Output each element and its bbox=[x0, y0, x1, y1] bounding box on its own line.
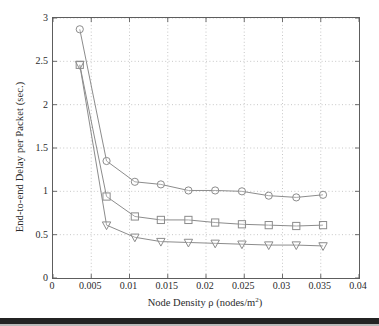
data-point-marker bbox=[238, 221, 245, 228]
y-axis-tick-labels: 00.511.522.53 bbox=[0, 17, 48, 277]
data-point-marker bbox=[265, 242, 273, 250]
x-axis-tick-labels: 00.0050.010.0150.020.0250.030.0350.04 bbox=[52, 280, 358, 296]
data-point-marker bbox=[131, 178, 138, 185]
series-circle-series bbox=[76, 26, 326, 201]
data-point-marker bbox=[212, 219, 219, 226]
x-axis-title: Node Density ρ (nodes/m2) bbox=[52, 297, 358, 308]
data-point-marker bbox=[157, 238, 165, 246]
data-point-marker bbox=[76, 26, 83, 33]
data-point-marker bbox=[103, 193, 110, 200]
y-tick-label: 2.5 bbox=[4, 55, 48, 66]
data-point-marker bbox=[102, 222, 110, 230]
plot-area bbox=[52, 17, 360, 279]
y-tick-label: 1.5 bbox=[4, 142, 48, 153]
series-triangle-series bbox=[76, 62, 328, 251]
data-point-marker bbox=[212, 187, 219, 194]
y-tick-label: 0.5 bbox=[4, 228, 48, 239]
data-point-marker bbox=[265, 192, 272, 199]
data-point-marker bbox=[238, 188, 245, 195]
data-point-marker bbox=[185, 216, 192, 223]
figure: End-to-end Delay per Packet (sec.) 00.51… bbox=[0, 0, 379, 326]
x-tick-label: 0.04 bbox=[328, 280, 379, 291]
data-point-marker bbox=[157, 181, 164, 188]
data-point-marker bbox=[211, 240, 219, 248]
chart-canvas bbox=[53, 18, 359, 278]
series-square-series bbox=[76, 61, 326, 229]
y-tick-label: 3 bbox=[4, 12, 48, 23]
data-point-marker bbox=[319, 191, 326, 198]
data-point-marker bbox=[292, 242, 300, 250]
y-tick-label: 2 bbox=[4, 98, 48, 109]
data-point-marker bbox=[319, 243, 327, 251]
data-point-marker bbox=[293, 194, 300, 201]
data-point-marker bbox=[319, 222, 326, 229]
data-point-marker bbox=[293, 222, 300, 229]
data-point-marker bbox=[157, 216, 164, 223]
data-point-marker bbox=[185, 187, 192, 194]
data-point-marker bbox=[131, 213, 138, 220]
data-point-marker bbox=[265, 222, 272, 229]
data-point-marker bbox=[184, 239, 192, 247]
x-axis-title-suffix: ) bbox=[259, 297, 263, 308]
data-point-marker bbox=[238, 241, 246, 249]
data-point-marker bbox=[103, 157, 110, 164]
x-axis-title-text: Node Density ρ (nodes/m bbox=[148, 297, 256, 308]
gridlines bbox=[53, 18, 359, 278]
y-tick-label: 1 bbox=[4, 185, 48, 196]
